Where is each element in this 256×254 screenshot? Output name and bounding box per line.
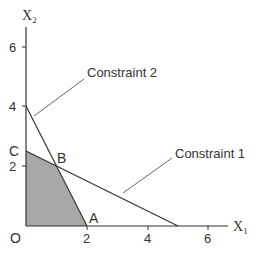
constraint-1-label: Constraint 1 bbox=[175, 146, 245, 161]
y-tick-label-4: 4 bbox=[9, 99, 16, 114]
point-b-label: B bbox=[57, 150, 66, 166]
point-c-label: C bbox=[9, 143, 19, 159]
y-axis-label: X2 bbox=[22, 8, 37, 25]
constraint-1-leader bbox=[123, 158, 172, 193]
y-tick-label-2: 2 bbox=[9, 159, 16, 174]
x-tick-label-6: 6 bbox=[204, 231, 211, 246]
x-axis-label: X1 bbox=[233, 219, 248, 236]
point-a-label: A bbox=[89, 210, 99, 226]
constraint-2-leader bbox=[34, 79, 84, 116]
y-tick-label-6: 6 bbox=[9, 40, 16, 55]
origin-label: O bbox=[10, 230, 21, 246]
x-tick-label-4: 4 bbox=[144, 231, 151, 246]
x-tick-label-2: 2 bbox=[83, 231, 90, 246]
constraint-2-label: Constraint 2 bbox=[87, 65, 157, 80]
lp-diagram: 2 4 6 2 4 6 X2 X1 O Constraint 2 Constra… bbox=[0, 0, 256, 254]
